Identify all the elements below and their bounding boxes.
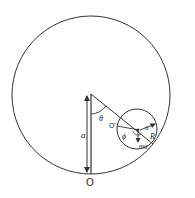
diagram-canvas: O a θ O' ϕ b R mg — [0, 0, 195, 198]
center-small-point — [137, 129, 140, 132]
theta-arc — [91, 106, 106, 114]
label-b: b — [145, 124, 149, 132]
label-center-small: O' — [109, 122, 116, 129]
label-R: R — [149, 132, 155, 141]
phi-line — [117, 126, 139, 130]
label-mg: mg — [139, 142, 148, 150]
label-origin: O — [86, 177, 94, 188]
label-a: a — [81, 130, 86, 140]
label-phi: ϕ — [122, 132, 126, 141]
label-theta: θ — [99, 114, 103, 123]
